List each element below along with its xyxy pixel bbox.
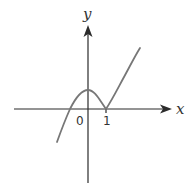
- x-axis-label: x: [176, 100, 185, 118]
- function-graph: y x 0 1: [0, 0, 190, 189]
- origin-label: 0: [76, 114, 84, 128]
- function-curve: [57, 48, 140, 142]
- x-tick-label-one: 1: [103, 114, 111, 128]
- y-axis-label: y: [82, 5, 92, 23]
